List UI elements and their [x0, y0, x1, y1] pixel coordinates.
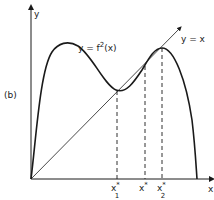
- diagonal-label: y = x: [181, 34, 206, 44]
- diagram-figure: y x (b) y = f2(x) y = x x*1 x* x*2: [0, 0, 214, 200]
- panel-label: (b): [4, 90, 17, 100]
- curve-f2: [31, 43, 197, 179]
- fixed-point-label-x2star: x*2: [157, 181, 166, 200]
- fixed-point-label-x1star: x*1: [111, 181, 120, 200]
- y-axis-label: y: [34, 9, 40, 19]
- fixed-point-label-xstar: x*: [139, 181, 148, 193]
- x-axis-label: x: [208, 184, 214, 194]
- curve-label: y = f2(x): [78, 41, 117, 53]
